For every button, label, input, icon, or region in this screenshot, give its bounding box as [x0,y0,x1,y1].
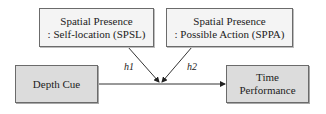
depth-cue-label: Depth Cue [33,78,80,91]
time-performance-line1: Time [239,71,295,84]
moderator-spsl-title: Spatial Presence [48,15,146,28]
time-performance-line2: Performance [239,84,295,97]
moderator-sppa-box: Spatial Presence : Possible Action (SPPA… [166,8,293,47]
moderator-sppa-subtitle: : Possible Action (SPPA) [175,28,285,41]
moderator-spsl-box: Spatial Presence : Self-location (SPSL) [39,8,154,47]
depth-cue-box: Depth Cue [15,65,98,103]
hypothesis-h1-label: h1 [124,61,134,72]
moderator-spsl-subtitle: : Self-location (SPSL) [48,28,146,41]
moderator-sppa-title: Spatial Presence [175,15,285,28]
hypothesis-h2-label: h2 [187,61,197,72]
time-performance-box: Time Performance [226,65,309,103]
